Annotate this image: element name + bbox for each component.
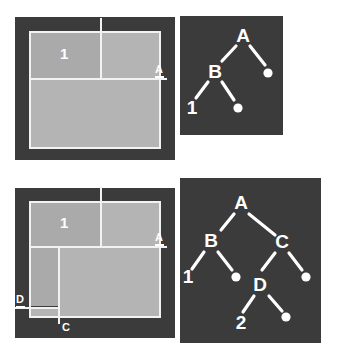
cut-label-a-top-text: A: [155, 63, 163, 75]
split-line-c-bottom: [58, 246, 60, 324]
cut-label-b-top: B: [104, 5, 112, 16]
partition-diagram-top: 1 B A: [15, 17, 175, 160]
tree-edge-a-b-top: [222, 46, 236, 61]
cut-label-a-top-underline: [155, 76, 164, 78]
bsp-tree-top-svg: A B 1: [180, 16, 283, 135]
tree-edge-a-b-bottom: [221, 214, 234, 230]
tree-leaf-dot-d-right-bottom: [281, 312, 290, 321]
tree-node-1-bottom: 1: [183, 266, 194, 287]
split-line-b-bottom: [100, 186, 102, 247]
tree-node-b-top: B: [208, 61, 222, 82]
tree-edge-b-dot-bottom: [218, 252, 232, 270]
partition-frame-bottom: [29, 201, 161, 318]
tree-edge-c-d-bottom: [262, 253, 275, 270]
cut-label-d-bottom: D: [16, 294, 25, 308]
cut-label-a-bottom-underline: [155, 244, 164, 246]
tree-edge-a-dot-top: [250, 46, 265, 65]
tree-edge-b-dot-top: [222, 82, 234, 100]
tree-node-2-bottom: 2: [236, 312, 247, 333]
split-line-a-top: [29, 78, 167, 80]
tree-edge-a-c-bottom: [249, 214, 275, 235]
cut-label-b-top-text: B: [104, 4, 112, 16]
cut-label-a-bottom-text: A: [155, 231, 163, 243]
tree-node-c-bottom: C: [275, 231, 289, 252]
tree-leaf-dot-top-inner: [233, 103, 242, 112]
bsp-tree-bottom-svg: A B C 1 D 2: [180, 178, 321, 343]
partition-region-label-1-bottom: 1: [60, 215, 68, 230]
cut-label-b-bottom: B: [104, 175, 112, 186]
tree-node-d-bottom: D: [253, 274, 267, 295]
tree-node-a-bottom: A: [234, 192, 248, 213]
tree-leaf-dot-c-right-bottom: [301, 272, 310, 281]
cut-label-c-bottom-text: C: [62, 321, 70, 333]
tree-edge-b-1-top: [196, 82, 208, 98]
tree-edge-b-1-bottom: [192, 252, 204, 269]
tree-edge-d-dot-bottom: [269, 296, 282, 311]
cut-label-b-bottom-text: B: [104, 174, 112, 186]
partition-region-label-1-top: 1: [60, 46, 68, 61]
tree-edge-c-dot-bottom: [289, 253, 302, 270]
split-line-a-bottom: [29, 246, 167, 248]
cut-label-a-bottom: A: [155, 232, 164, 246]
split-line-b-top: [100, 18, 102, 79]
tree-leaf-dot-b-right-bottom: [231, 272, 240, 281]
bsp-tree-top: A B 1: [180, 16, 283, 135]
partition-frame-top: [29, 31, 161, 149]
cut-label-d-bottom-text: D: [16, 293, 24, 305]
tree-node-a-top: A: [236, 25, 250, 46]
cut-label-a-top: A: [155, 64, 164, 78]
cut-label-d-bottom-underline: [16, 306, 25, 308]
tree-node-1-top: 1: [187, 97, 198, 118]
figure-root: 1 B A A B 1: [0, 0, 338, 360]
tree-node-b-bottom: B: [204, 230, 218, 251]
bsp-tree-bottom: A B C 1 D 2: [180, 178, 321, 343]
cut-label-c-bottom: C: [62, 322, 70, 333]
partition-diagram-bottom: 1 B A D C: [15, 188, 175, 338]
tree-edge-d-2-bottom: [243, 296, 254, 312]
tree-leaf-dot-top-right: [263, 68, 272, 77]
